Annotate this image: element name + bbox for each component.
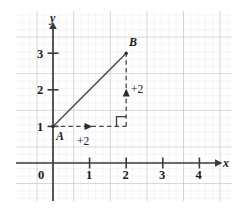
- x-tick-label-3: 3: [159, 169, 165, 182]
- origin-label: 0: [38, 169, 44, 182]
- x-axis-label: x: [223, 157, 229, 169]
- x-tick-label-2: 2: [123, 169, 129, 182]
- vertical-shift-label: +2: [131, 84, 143, 96]
- y-tick-label-3: 3: [37, 48, 43, 61]
- y-tick-label-1: 1: [37, 121, 43, 134]
- point-label-a: A: [56, 130, 64, 142]
- x-tick-label-4: 4: [196, 169, 202, 182]
- y-tick-label-2: 2: [37, 84, 43, 97]
- x-tick-label-1: 1: [86, 169, 92, 182]
- y-axis-label: y: [50, 12, 55, 24]
- horizontal-shift-label: +2: [77, 136, 89, 148]
- point-label-b: B: [129, 36, 137, 48]
- coordinate-grid-figure: y x 0 1 2 3 4 1 2 3 A B +2 +2: [0, 0, 247, 210]
